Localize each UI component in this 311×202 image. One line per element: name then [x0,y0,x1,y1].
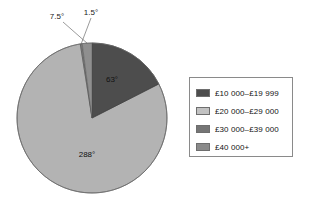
legend-box: £10 000–£19 999 £20 000–£29 000 £30 000–… [189,77,293,157]
pie-value-label-1-5: 1.5° [84,8,98,17]
legend-item-20000-29000[interactable]: £20 000–£29 000 [196,102,292,120]
pie-value-label-63: 63° [106,75,118,84]
leader-line-1-5 [81,18,91,44]
legend-swatch-30000-39000 [196,125,210,133]
legend-item-40000-plus[interactable]: £40 000+ [196,138,292,156]
leader-line-7-5 [63,22,87,43]
legend-label-20000-29000: £20 000–£29 000 [215,107,279,116]
pie-value-label-288: 288° [79,150,96,159]
legend-label-10000-19999: £10 000–£19 999 [215,89,279,98]
legend-item-30000-39000[interactable]: £30 000–£39 000 [196,120,292,138]
legend-label-40000-plus: £40 000+ [215,143,249,152]
legend-label-30000-39000: £30 000–£39 000 [215,125,279,134]
pie-chart-figure: 63° 288° 7.5° 1.5° £10 000–£19 999 £20 0… [0,0,311,202]
pie-value-label-7-5: 7.5° [50,12,64,21]
legend-swatch-20000-29000 [196,107,210,115]
legend-swatch-10000-19999 [196,89,210,97]
legend-item-10000-19999[interactable]: £10 000–£19 999 [196,84,292,102]
legend-swatch-40000-plus [196,143,210,151]
